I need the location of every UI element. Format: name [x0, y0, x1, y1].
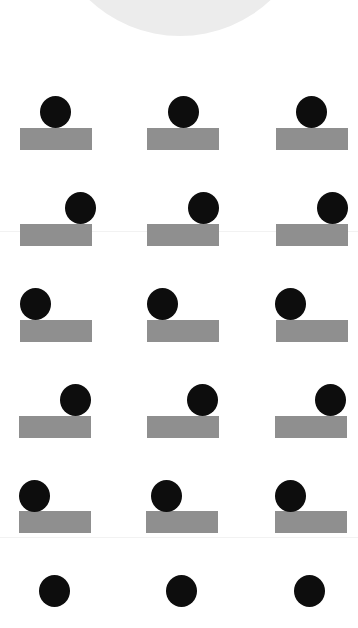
block-rect	[146, 511, 218, 533]
block-rect	[147, 320, 219, 342]
ball-circle	[19, 480, 50, 512]
ball-circle	[294, 575, 325, 607]
block-rect	[276, 128, 348, 150]
ball-circle	[65, 192, 96, 224]
block-rect	[20, 224, 92, 246]
ball-circle	[151, 480, 182, 512]
ball-circle	[188, 192, 219, 224]
ball-circle	[147, 288, 178, 320]
block-rect	[147, 416, 219, 438]
ball-circle	[275, 480, 306, 512]
block-rect	[276, 320, 348, 342]
block-rect	[147, 128, 219, 150]
ball-circle	[166, 575, 197, 607]
ball-circle	[168, 96, 199, 128]
ball-circle	[315, 384, 346, 416]
block-rect	[275, 511, 347, 533]
block-rect	[275, 416, 347, 438]
ball-circle	[275, 288, 306, 320]
ball-circle	[20, 288, 51, 320]
block-rect	[19, 511, 91, 533]
divider-line	[0, 537, 358, 538]
ball-circle	[187, 384, 218, 416]
block-rect	[19, 416, 91, 438]
block-rect	[276, 224, 348, 246]
ball-circle	[317, 192, 348, 224]
block-rect	[20, 320, 92, 342]
block-rect	[147, 224, 219, 246]
ball-circle	[60, 384, 91, 416]
large-circle-decoration	[48, 0, 312, 36]
ball-circle	[39, 575, 70, 607]
ball-circle	[296, 96, 327, 128]
block-rect	[20, 128, 92, 150]
ball-circle	[40, 96, 71, 128]
